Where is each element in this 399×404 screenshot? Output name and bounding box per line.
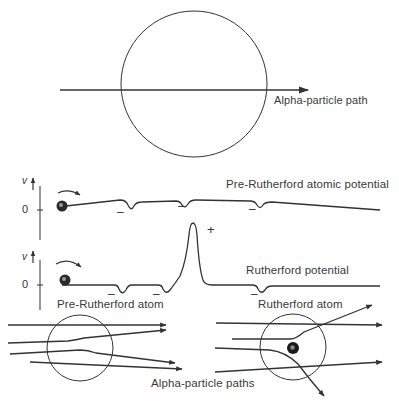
alpha-particle-icon — [60, 275, 71, 286]
pre-rutherford-atom-label: Pre-Rutherford atom — [57, 298, 164, 310]
incoming-arrow — [58, 191, 80, 195]
minus-sign: – — [251, 287, 258, 301]
minus-sign: – — [249, 202, 256, 216]
alpha-particle-icon — [57, 201, 68, 212]
alpha-path-4 — [215, 362, 382, 372]
y-axis-label: v — [22, 251, 27, 262]
rutherford-potential-title: Rutherford potential — [246, 264, 349, 276]
pre-rutherford-atom-diagram — [8, 315, 182, 381]
minus-sign: – — [178, 199, 185, 213]
rutherford-atom-label: Rutherford atom — [258, 298, 343, 310]
y-axis-label: v — [22, 175, 27, 186]
alpha-particle-path-label: Alpha-particle path — [274, 94, 368, 106]
alpha-path-2 — [232, 305, 372, 339]
plus-sign: + — [207, 222, 215, 237]
incoming-arrow — [56, 261, 81, 267]
potential-curve — [66, 200, 380, 210]
pre-rutherford-potential-title: Pre-Rutherford atomic potential — [226, 178, 389, 190]
minus-sign: – — [117, 205, 124, 219]
alpha-path-1 — [216, 323, 382, 325]
alpha-particle-paths-label: Alpha-particle paths — [151, 377, 255, 389]
diagram-canvas — [0, 0, 399, 404]
alpha-path-3 — [10, 350, 175, 363]
atom-circle — [121, 11, 267, 157]
potential-curve — [62, 223, 380, 293]
zero-label: 0 — [22, 278, 28, 290]
top-atom-diagram — [60, 11, 308, 157]
alpha-path-2 — [8, 330, 166, 343]
zero-label: 0 — [22, 203, 28, 215]
nucleus-icon — [287, 342, 299, 354]
